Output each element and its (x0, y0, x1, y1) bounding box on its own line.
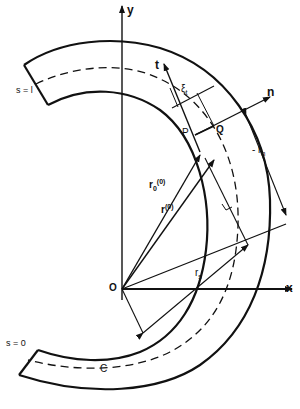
xi-label: ξt (181, 84, 187, 96)
beam-outline (19, 41, 270, 389)
curved-beam-diagram (0, 0, 300, 409)
tangent-axis-t (164, 64, 200, 152)
xi-ext-1 (170, 88, 178, 107)
rn-dim-line (246, 115, 286, 215)
rs-label: rs (195, 268, 202, 280)
s-l-label: s = l (16, 86, 33, 95)
rn-label: - rn (252, 145, 265, 157)
s-0-label: s = 0 (6, 339, 26, 348)
r0-label: r0(0) (149, 178, 165, 192)
point-p-label: P (182, 128, 189, 138)
tangent-label: t (155, 59, 159, 71)
r-label: r(0) (161, 203, 173, 215)
vector-r0 (122, 155, 200, 289)
centerline-label: C (100, 364, 107, 374)
origin-label: O (109, 283, 117, 293)
rs-ext-2 (205, 158, 248, 245)
end-cap-s-0 (19, 350, 38, 375)
segment-pq (195, 126, 214, 135)
point-q-label: Q (216, 125, 224, 135)
y-axis-label: y (127, 4, 134, 16)
xi-ext-2 (197, 93, 214, 126)
outer-arc (19, 41, 270, 389)
normal-label: n (267, 86, 274, 98)
rs-ext-1 (122, 289, 143, 333)
x-axis-label: x (286, 282, 293, 294)
